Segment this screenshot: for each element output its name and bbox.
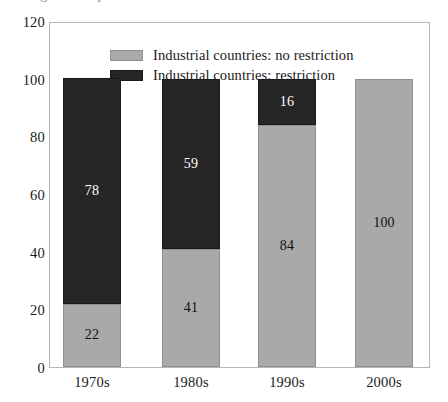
y-tick-label-40: 40 (3, 244, 45, 261)
bar-value-restriction-1980s: 59 (184, 157, 198, 171)
y-tick-label-80: 80 (3, 129, 45, 146)
bar-group-1990s[interactable]: 16 84 (258, 79, 316, 368)
bar-value-restriction-1970s: 78 (85, 184, 99, 198)
legend-label-no-restriction: Industrial countries: no restriction (153, 47, 354, 64)
bar-segment-no-restriction-2000s[interactable]: 100 (355, 79, 413, 368)
y-tick-label-120: 120 (3, 14, 45, 31)
bar-segment-restriction-1970s[interactable]: 78 (63, 78, 121, 303)
bar-segment-restriction-1980s[interactable]: 59 (162, 79, 220, 249)
bar-value-no-restriction-1980s: 41 (184, 301, 198, 315)
legend-item-restriction: Industrial countries: restriction (110, 67, 354, 84)
plot-area: Industrial countries: no restriction Ind… (49, 22, 430, 368)
x-tick-label-2000s: 2000s (325, 374, 443, 391)
figure-title-remnant: Figure 1 Capital account restrictions in… (28, 0, 428, 3)
bar-group-1970s[interactable]: 78 22 (63, 79, 121, 368)
y-axis: 120 100 80 60 40 20 0 (0, 0, 45, 402)
legend: Industrial countries: no restriction Ind… (110, 47, 354, 84)
bar-group-1980s[interactable]: 59 41 (162, 79, 220, 368)
bar-segment-no-restriction-1980s[interactable]: 41 (162, 249, 220, 367)
bar-value-no-restriction-1970s: 22 (85, 328, 99, 342)
bar-value-restriction-1990s: 16 (280, 95, 294, 109)
legend-swatch-icon-no-restriction (110, 50, 143, 61)
y-tick-label-100: 100 (3, 71, 45, 88)
bar-segment-no-restriction-1990s[interactable]: 84 (258, 125, 316, 367)
bar-segment-no-restriction-1970s[interactable]: 22 (63, 304, 121, 368)
bar-value-no-restriction-2000s: 100 (373, 216, 395, 230)
bar-segment-restriction-1990s[interactable]: 16 (258, 79, 316, 125)
y-tick-label-60: 60 (3, 187, 45, 204)
bar-group-2000s[interactable]: 100 (355, 79, 413, 368)
bar-value-no-restriction-1990s: 84 (280, 239, 294, 253)
chart-figure: Figure 1 Capital account restrictions in… (0, 0, 448, 402)
y-tick-label-20: 20 (3, 302, 45, 319)
legend-item-no-restriction: Industrial countries: no restriction (110, 47, 354, 64)
